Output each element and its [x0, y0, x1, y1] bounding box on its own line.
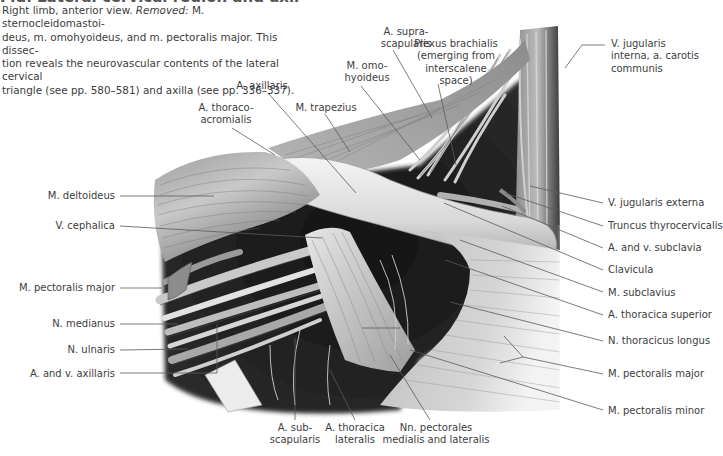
- label-n-ulnaris: N. ulnaris: [67, 344, 115, 356]
- label-m-trapezius: M. trapezius: [295, 102, 356, 114]
- label-m-subclavius: M. subclavius: [608, 287, 676, 299]
- leader-line-v-jugularis-interna: [565, 45, 605, 68]
- label-line: M. subclavius: [608, 287, 676, 299]
- label-line: scapularis: [270, 434, 321, 446]
- label-line: M. pectoralis minor: [608, 405, 704, 417]
- label-line: M. trapezius: [295, 102, 356, 114]
- label-line: V. jugularis: [611, 38, 699, 50]
- leader-line-a-thoracoacromialis: [232, 128, 275, 155]
- label-truncus-thyrocervicalis: Truncus thyrocervicalis: [608, 220, 723, 232]
- label-line: Nn. pectorales: [382, 422, 489, 434]
- label-m-omohyoideus: M. omo-hyoideus: [344, 60, 389, 85]
- label-line: A. and v. subclavia: [608, 242, 702, 254]
- label-v-jugularis-externa: V. jugularis externa: [608, 197, 704, 209]
- label-line: hyoideus: [344, 72, 389, 84]
- label-line: M. pectoralis major: [19, 282, 115, 294]
- label-line: A. thoraco-: [198, 102, 253, 114]
- label-line: A. sub-: [270, 422, 321, 434]
- label-line: Clavicula: [608, 264, 653, 276]
- label-line: V. cephalica: [55, 220, 115, 232]
- label-m-pectoralis-major-left: M. pectoralis major: [19, 282, 115, 294]
- label-line: M. pectoralis major: [608, 368, 704, 380]
- label-a-thoracica-lateralis: A. thoracicalateralis: [325, 422, 385, 447]
- label-clavicula: Clavicula: [608, 264, 653, 276]
- label-n-medianus: N. medianus: [52, 318, 115, 330]
- label-a-v-axillaris: A. and v. axillaris: [30, 368, 115, 380]
- label-nn-pectorales: Nn. pectoralesmedialis and lateralis: [382, 422, 489, 447]
- label-line: N. medianus: [52, 318, 115, 330]
- label-line: (emerging from: [414, 50, 498, 62]
- label-line: Plexus brachialis: [414, 38, 498, 50]
- label-line: A. thoracica superior: [608, 309, 712, 321]
- label-line: interscalene: [414, 63, 498, 75]
- fade-overlay: [500, 225, 570, 425]
- label-line: A. thoracica: [325, 422, 385, 434]
- label-a-v-subclavia: A. and v. subclavia: [608, 242, 702, 254]
- label-line: N. thoracicus longus: [608, 335, 710, 347]
- label-a-thoracoacromialis: A. thoraco-acromialis: [198, 102, 253, 127]
- label-m-deltoideus: M. deltoideus: [48, 190, 115, 202]
- label-line: interna, a. carotis: [611, 50, 699, 62]
- label-a-thoracica-superior: A. thoracica superior: [608, 309, 712, 321]
- label-v-jugularis-interna: V. jugularisinterna, a. carotiscommunis: [611, 38, 699, 75]
- label-line: A. supra-: [381, 26, 432, 38]
- label-line: Truncus thyrocervicalis: [608, 220, 723, 232]
- label-line: acromialis: [198, 114, 253, 126]
- label-m-pectoralis-minor: M. pectoralis minor: [608, 405, 704, 417]
- label-line: N. ulnaris: [67, 344, 115, 356]
- label-line: A. and v. axillaris: [30, 368, 115, 380]
- label-a-axillaris: A. axillaris: [236, 80, 288, 92]
- label-a-subscapularis: A. sub-scapularis: [270, 422, 321, 447]
- label-line: M. deltoideus: [48, 190, 115, 202]
- label-line: medialis and lateralis: [382, 434, 489, 446]
- label-line: space): [414, 75, 498, 87]
- label-m-pectoralis-major-right: M. pectoralis major: [608, 368, 704, 380]
- label-line: V. jugularis externa: [608, 197, 704, 209]
- label-line: lateralis: [325, 434, 385, 446]
- label-v-cephalica: V. cephalica: [55, 220, 115, 232]
- label-n-thoracicus-longus: N. thoracicus longus: [608, 335, 710, 347]
- label-plexus-brachialis: Plexus brachialis(emerging frominterscal…: [414, 38, 498, 87]
- label-line: communis: [611, 63, 699, 75]
- label-line: A. axillaris: [236, 80, 288, 92]
- label-line: M. omo-: [344, 60, 389, 72]
